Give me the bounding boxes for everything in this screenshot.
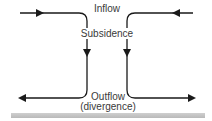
- arrow-left-icon: [18, 94, 26, 102]
- inflow-label: Inflow: [94, 3, 120, 14]
- arrow-left-icon: [172, 9, 180, 17]
- arrow-down-icon: [123, 49, 131, 57]
- ground-surface: [11, 113, 205, 118]
- left-flow-path: [20, 13, 87, 98]
- right-flow-path: [127, 13, 193, 98]
- arrow-right-icon: [36, 9, 44, 17]
- subsidence-diagram: Inflow Subsidence Outflow (divergence): [0, 0, 212, 121]
- arrow-right-icon: [188, 94, 196, 102]
- arrow-down-icon: [83, 49, 91, 57]
- divergence-label: (divergence): [80, 101, 136, 112]
- subsidence-label: Subsidence: [81, 28, 133, 39]
